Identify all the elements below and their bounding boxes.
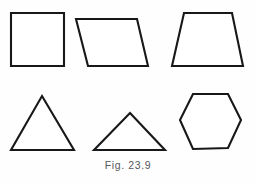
shape-hexagon (180, 94, 241, 149)
figure-caption: Fig. 23.9 (0, 159, 256, 172)
shapes-canvas (0, 0, 256, 185)
shape-isosceles-triangle (94, 113, 165, 150)
shape-trapezoid (172, 13, 243, 66)
shape-parallelogram (76, 19, 148, 66)
figure-container: Fig. 23.9 (0, 0, 256, 185)
shape-square (11, 13, 64, 66)
shape-equilateral-triangle (11, 96, 74, 150)
